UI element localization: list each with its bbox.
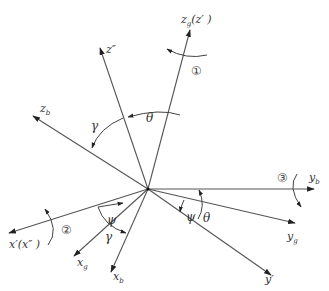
axis-xb [111,189,148,272]
axis-label-main: z″ [105,43,117,56]
theta-arc-right [198,190,202,219]
angle-label: θ [203,211,211,225]
diagram-canvas: zg(z′ )z″zbybygy′x′(x″ )xgxb θγψγψθ ①②③ [0,0,329,291]
rotation-step-marker: ① [191,64,202,78]
angle-label: ψ [107,213,117,227]
axis-label-subscript: b [119,277,124,285]
angle-label: γ [91,119,99,133]
axis-x1 [9,189,148,233]
axis-label-subscript: g [83,263,88,271]
axis-label-xg: xg [77,256,88,271]
axis-yg [148,189,295,223]
axis-label-suffix: (z′ ) [191,13,211,26]
origin-point [146,187,149,190]
axis-label-subscript: b [315,178,320,186]
rotation-arc-1 [167,49,207,57]
axis-label-xb: xb [113,270,124,285]
axis-label-main: x′(x″ ) [9,238,40,251]
axis-z2 [100,48,148,189]
angle-label: ψ [186,210,196,224]
theta-arc-top [128,112,180,117]
rotation-step-marker: ② [61,223,72,237]
psi-arc-right [180,200,184,212]
axis-label-subscript: g [293,237,298,245]
angle-label: θ [146,111,154,125]
axis-label-zb: zb [39,102,51,117]
axis-label-x1: x′(x″ ) [9,238,40,251]
angle-label: γ [105,230,113,244]
axis-label-yg: yg [286,230,298,245]
rotation-arc-2 [45,209,53,245]
rotation-step-marker: ③ [277,171,288,185]
frame-rotation-diagram: zg(z′ )z″zbybygy′x′(x″ )xgxb θγψγψθ ①②③ [0,0,329,291]
axis-labels: zg(z′ )z″zbybygy′x′(x″ )xgxb [9,13,320,286]
axis-label-zg: zg(z′ ) [180,13,212,28]
axis-label-yb: yb [308,171,320,186]
axis-label-main: y′ [264,273,274,286]
rotation-arc-3 [293,174,301,207]
axis-label-y1: y′ [264,273,274,286]
axis-zg [148,30,190,189]
axes [9,30,314,275]
axis-label-subscript: b [46,109,51,117]
axis-y1 [148,189,271,275]
axis-label-z2: z″ [105,43,117,56]
